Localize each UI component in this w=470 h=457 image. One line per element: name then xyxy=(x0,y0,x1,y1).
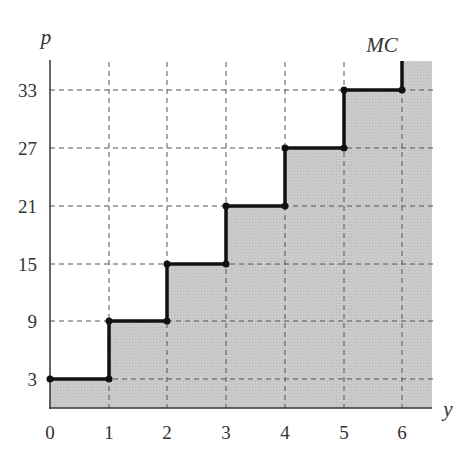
x-tick: 2 xyxy=(162,422,172,443)
x-tick: 5 xyxy=(339,422,349,443)
y-tick: 15 xyxy=(18,254,37,275)
x-tick-labels: 0 1 2 3 4 5 6 xyxy=(45,422,407,443)
x-tick: 0 xyxy=(45,422,55,443)
x-tick: 1 xyxy=(104,422,114,443)
y-tick: 9 xyxy=(28,311,38,332)
x-tick: 3 xyxy=(221,422,231,443)
y-tick: 27 xyxy=(18,138,37,159)
y-tick-labels: 3 9 15 21 27 33 xyxy=(18,80,37,390)
y-tick: 21 xyxy=(18,196,37,217)
y-tick: 33 xyxy=(18,80,37,101)
mc-curve-label: MC xyxy=(365,33,398,57)
x-tick: 4 xyxy=(280,422,290,443)
y-tick: 3 xyxy=(28,369,38,390)
step-chart: 3 9 15 21 27 33 0 1 2 3 4 5 6 p y MC xyxy=(0,0,470,457)
y-axis-label: p xyxy=(39,25,52,49)
x-tick: 6 xyxy=(397,422,407,443)
x-axis-label: y xyxy=(441,397,453,421)
